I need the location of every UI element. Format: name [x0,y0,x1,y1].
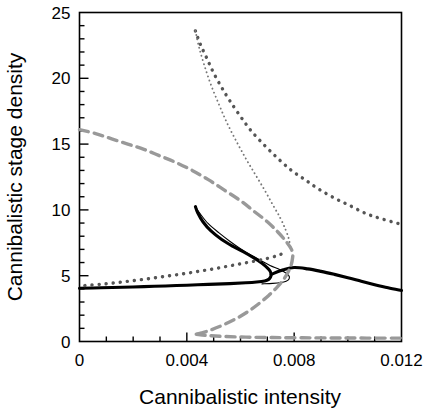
x-tick-label: 0.008 [273,351,316,370]
y-tick-label: 5 [61,267,70,286]
y-tick-label: 20 [52,69,71,88]
bifurcation-diagram-chart: 00.0040.0080.012 0510152025 Cannibalisti… [0,0,427,413]
x-tick-label: 0.004 [166,351,209,370]
figure-container: 00.0040.0080.012 0510152025 Cannibalisti… [0,0,427,413]
x-tick-label: 0.012 [380,351,423,370]
y-axis-title: Cannibalistic stage density [3,52,26,301]
y-tick-label: 10 [52,201,71,220]
y-tick-label: 25 [52,4,71,23]
y-tick-label: 0 [61,333,70,352]
y-tick-label: 15 [52,135,71,154]
x-axis-title: Cannibalistic intensity [139,385,341,408]
x-tick-label: 0 [75,351,84,370]
